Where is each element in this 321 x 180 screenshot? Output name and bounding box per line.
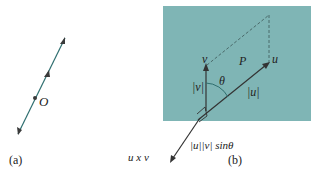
arrow-head-icon [170, 155, 176, 163]
caption-b: (b) [228, 154, 242, 166]
cross-magnitude-label: |u||v| sinθ [190, 140, 233, 151]
cross-product-label: u x v [128, 152, 149, 163]
arrow-head-icon [44, 70, 50, 77]
vector-v-label: v [202, 53, 207, 65]
magnitude-u-label: |u| [247, 86, 260, 98]
caption-a: (a) [9, 154, 22, 166]
vector-u-label: u [272, 53, 278, 65]
arrow-head-icon [60, 37, 65, 44]
angle-theta-label: θ [219, 75, 225, 87]
panel-a-line [17, 37, 65, 135]
point-o-label: O [39, 95, 48, 108]
diagram-canvas [0, 0, 321, 180]
origin-point-icon [33, 96, 37, 100]
plane-p [163, 6, 311, 121]
magnitude-v-label: |v| [192, 81, 204, 93]
plane-p-label: P [239, 55, 246, 67]
